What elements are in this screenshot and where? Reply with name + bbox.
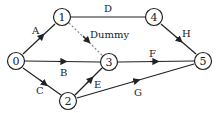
node-5: 5 xyxy=(195,53,212,70)
edge-label-a: A xyxy=(31,25,40,36)
svg-text:1: 1 xyxy=(59,11,66,24)
svg-text:4: 4 xyxy=(151,11,158,24)
edge-h xyxy=(161,24,196,54)
node-4: 4 xyxy=(146,9,163,26)
node-0: 0 xyxy=(8,53,25,70)
svg-text:0: 0 xyxy=(13,55,20,68)
edge-label-b: B xyxy=(60,67,67,78)
edge-label-c: C xyxy=(36,85,44,96)
network-diagram: A B C D Dummy E F G H 0 1 2 3 4 5 xyxy=(0,0,221,113)
edge-label-d: D xyxy=(104,3,112,14)
node-1: 1 xyxy=(54,9,71,26)
edge-label-f: F xyxy=(149,48,156,59)
node-2: 2 xyxy=(60,93,77,110)
node-3: 3 xyxy=(101,54,118,71)
svg-text:3: 3 xyxy=(106,56,113,69)
edge-label-h: H xyxy=(182,28,191,39)
edge-f xyxy=(118,61,194,62)
edge-label-g: G xyxy=(134,87,142,98)
edge-label-dummy: Dummy xyxy=(90,29,129,40)
edge-b xyxy=(25,61,100,62)
edge-label-e: E xyxy=(94,79,101,90)
svg-text:5: 5 xyxy=(200,55,207,68)
svg-text:2: 2 xyxy=(65,95,72,108)
